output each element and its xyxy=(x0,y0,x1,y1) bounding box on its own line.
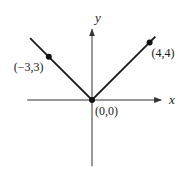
point-label: (0,0) xyxy=(95,104,118,118)
data-point xyxy=(89,97,95,103)
y-axis-label: y xyxy=(93,10,101,25)
x-axis-label: x xyxy=(168,92,175,107)
point-label: (4,4) xyxy=(152,46,175,60)
data-point xyxy=(147,39,153,45)
abs-value-graph: x y (−3,3)(4,4)(0,0) xyxy=(0,0,184,170)
point-label: (−3,3) xyxy=(14,60,44,74)
data-point xyxy=(46,54,52,60)
series-line-0 xyxy=(30,37,155,100)
